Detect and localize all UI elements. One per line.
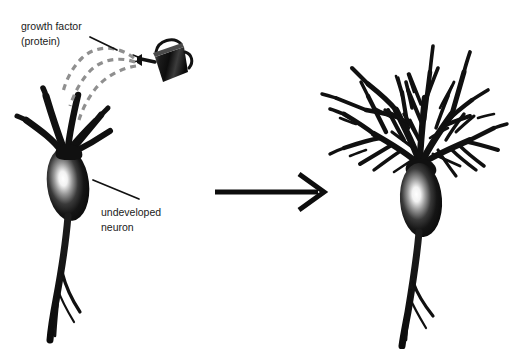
growth-factor-label-line2: (protein): [21, 35, 60, 47]
dendrite-2-tip: [43, 88, 46, 96]
undeveloped-neuron-label-line2: neuron: [101, 221, 134, 233]
neuron-growth-diagram: growth factor (protein) undeveloped neur…: [0, 0, 514, 349]
undeveloped-neuron-label-line1: undeveloped: [101, 206, 161, 218]
growth-factor-label-line1: growth factor: [21, 20, 82, 32]
figure-canvas: growth factor (protein) undeveloped neur…: [0, 0, 514, 349]
